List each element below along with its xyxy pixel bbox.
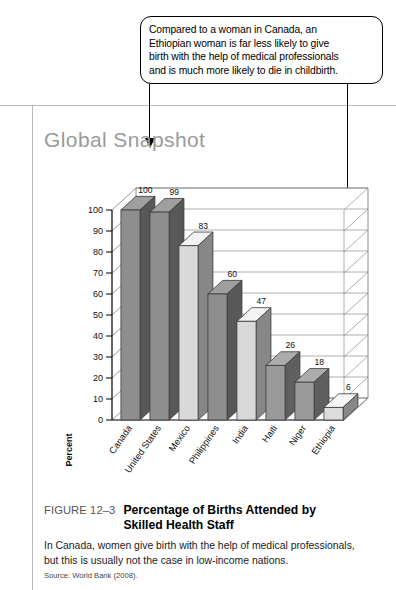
bar-value-label: 99	[170, 187, 180, 197]
caption-body-line2: but this is usually not the case in low-…	[44, 553, 374, 568]
y-tick-label: 20	[93, 373, 103, 383]
bar-value-label: 26	[286, 340, 296, 350]
figure-page: Compared to a woman in Canada, an Ethiop…	[0, 0, 396, 590]
y-tick-label: 70	[93, 268, 103, 278]
x-tick-label: Philippines	[187, 423, 221, 466]
y-axis-label: Percent	[64, 433, 74, 466]
y-tick-label: 30	[93, 352, 103, 362]
bar-chart: 0102030405060708090100100Canada99United …	[0, 175, 396, 495]
callout-line: birth with the help of medical professio…	[149, 50, 375, 64]
caption-source: Source: World Bank (2008).	[44, 571, 388, 580]
y-tick-label: 80	[93, 247, 103, 257]
x-tick-label: Canada	[107, 423, 134, 456]
bar-value-label: 18	[315, 357, 325, 367]
x-tick-label: India	[230, 423, 250, 446]
y-tick-label: 50	[93, 310, 103, 320]
figure-heading: FIGURE 12–3 Percentage of Births Attende…	[44, 503, 388, 532]
callout-box: Compared to a woman in Canada, an Ethiop…	[140, 16, 383, 84]
bar-value-label: 100	[138, 185, 153, 195]
y-tick-label: 0	[98, 415, 103, 425]
y-tick-label: 90	[93, 226, 103, 236]
bar-value-label: 6	[346, 382, 351, 392]
x-tick-label: Mexico	[167, 423, 192, 453]
page-top-rule	[0, 105, 396, 106]
callout-line: Ethiopian woman is far less likely to gi…	[149, 37, 375, 51]
figure-number: FIGURE 12–3	[44, 503, 115, 516]
chart-title: Global Snapshot	[44, 128, 205, 152]
caption-body-line1: In Canada, women give birth with the hel…	[44, 538, 374, 553]
y-tick-label: 60	[93, 289, 103, 299]
bar-value-label: 60	[228, 269, 238, 279]
figure-title-line1: Percentage of Births Attended by	[123, 503, 316, 518]
x-tick-label: Haiti	[260, 423, 279, 444]
bar-value-label: 83	[199, 221, 209, 231]
bar-value-label: 47	[257, 296, 267, 306]
figure-title-line2: Skilled Health Staff	[123, 518, 316, 533]
x-tick-label: Ethiopia	[310, 423, 338, 457]
y-tick-label: 100	[88, 205, 103, 215]
figure-caption: FIGURE 12–3 Percentage of Births Attende…	[44, 503, 388, 580]
y-tick-label: 10	[93, 394, 103, 404]
figure-title: Percentage of Births Attended by Skilled…	[123, 503, 316, 532]
callout-line: and is much more likely to die in childb…	[149, 64, 375, 78]
x-tick-label: Niger	[287, 423, 308, 447]
y-tick-label: 40	[93, 331, 103, 341]
caption-body: In Canada, women give birth with the hel…	[44, 538, 374, 568]
callout-line: Compared to a woman in Canada, an	[149, 23, 375, 37]
chart-plot-svg: 0102030405060708090100100Canada99United …	[0, 175, 396, 495]
